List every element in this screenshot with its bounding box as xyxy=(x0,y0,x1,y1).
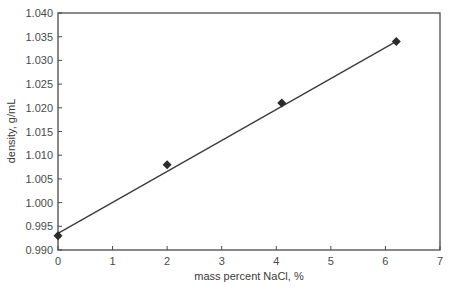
y-tick-label: 1.010 xyxy=(25,149,53,161)
x-axis-ticks: 01234567 xyxy=(55,246,443,267)
y-tick-label: 1.030 xyxy=(25,54,53,66)
y-tick-label: 0.995 xyxy=(25,220,53,232)
y-tick-label: 1.000 xyxy=(25,197,53,209)
y-tick-label: 1.025 xyxy=(25,78,53,90)
y-tick-label: 1.015 xyxy=(25,126,53,138)
x-tick-label: 0 xyxy=(55,255,61,267)
data-point-diamond xyxy=(277,99,286,108)
x-tick-label: 3 xyxy=(219,255,225,267)
y-tick-label: 1.035 xyxy=(25,31,53,43)
x-tick-label: 2 xyxy=(164,255,170,267)
y-axis-label: density, g/mL xyxy=(5,99,17,164)
y-tick-label: 1.040 xyxy=(25,7,53,19)
x-axis-label: mass percent NaCl, % xyxy=(194,270,304,282)
data-series xyxy=(54,37,401,240)
fit-line xyxy=(58,41,396,233)
data-point-diamond xyxy=(392,37,401,46)
x-tick-label: 6 xyxy=(382,255,388,267)
y-tick-label: 1.005 xyxy=(25,173,53,185)
data-point-diamond xyxy=(163,160,172,169)
x-tick-label: 4 xyxy=(273,255,279,267)
y-tick-label: 0.990 xyxy=(25,244,53,256)
x-tick-label: 1 xyxy=(110,255,116,267)
x-tick-label: 7 xyxy=(437,255,443,267)
x-tick-label: 5 xyxy=(328,255,334,267)
data-point-diamond xyxy=(54,231,63,240)
density-vs-nacl-chart: 0.9900.9951.0001.0051.0101.0151.0201.025… xyxy=(0,0,451,293)
y-tick-label: 1.020 xyxy=(25,102,53,114)
y-axis-ticks: 0.9900.9951.0001.0051.0101.0151.0201.025… xyxy=(25,7,62,256)
